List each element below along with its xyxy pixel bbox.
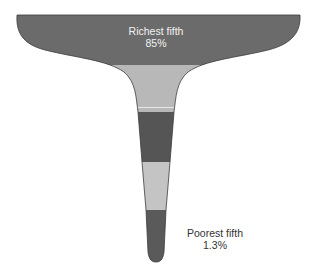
poorest-fifth-value: 1.3% [175, 239, 255, 251]
band-third [0, 112, 313, 162]
band-fourth [0, 162, 313, 210]
band-separator [0, 107, 313, 108]
richest-fifth-label: Richest fifth 85% [106, 25, 206, 49]
richest-fifth-value: 85% [106, 37, 206, 49]
richest-fifth-name: Richest fifth [106, 25, 206, 37]
band-second [0, 65, 313, 112]
poorest-fifth-label: Poorest fifth 1.3% [175, 227, 255, 251]
poorest-fifth-name: Poorest fifth [175, 227, 255, 239]
band-poorest [0, 210, 313, 265]
